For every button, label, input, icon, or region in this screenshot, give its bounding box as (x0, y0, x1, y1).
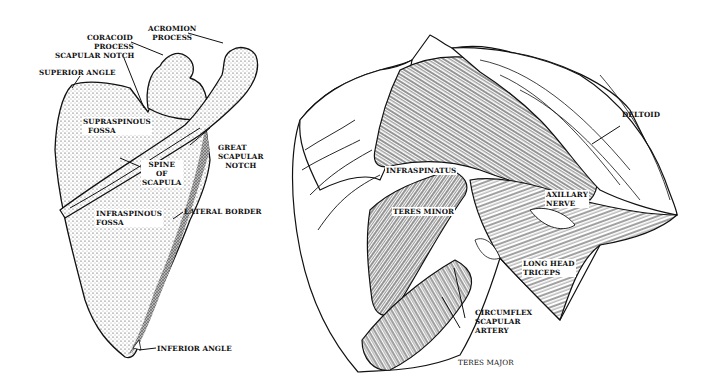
label-supraspinous-fossa: SUPRASPINOUS FOSSA (82, 117, 152, 135)
label-infraspinous-line1: INFRASPINOUS (96, 209, 162, 218)
label-circumflex-line1: CIRCUMFLEX (475, 308, 532, 317)
label-acromion-process: ACROMION PROCESS (148, 24, 196, 42)
label-infraspinatus: INFRASPINATUS (385, 166, 457, 175)
label-great-line3: NOTCH (218, 161, 264, 170)
label-teres-major: TERES MAJOR (458, 358, 514, 367)
label-acromion-line2: PROCESS (148, 33, 196, 42)
label-superior-angle: SUPERIOR ANGLE (39, 68, 116, 77)
label-lateral-border: LATERAL BORDER (184, 207, 262, 216)
label-axillary-nerve: AXILLARY NERVE (545, 190, 589, 208)
label-inferior-angle: INFERIOR ANGLE (157, 344, 232, 353)
label-spine-line3: SCAPULA (142, 178, 182, 187)
label-infraspinous-fossa: INFRASPINOUS FOSSA (95, 209, 163, 227)
label-teres-minor: TERES MINOR (392, 207, 455, 216)
label-coracoid-line1: CORACOID (86, 33, 134, 42)
label-spine-line2: OF (142, 169, 182, 178)
label-spine-of-scapula: SPINE OF SCAPULA (141, 160, 183, 187)
label-triceps-line2: TRICEPS (523, 268, 575, 277)
anatomy-figure: CORACOID PROCESS ACROMION PROCESS SCAPUL… (0, 0, 712, 390)
label-supraspinous-line2: FOSSA (83, 126, 151, 135)
label-great-line1: GREAT (218, 143, 264, 152)
label-long-head-triceps: LONG HEAD TRICEPS (522, 259, 576, 277)
label-acromion-line1: ACROMION (148, 24, 196, 33)
label-coracoid-process: CORACOID PROCESS (86, 33, 134, 51)
label-scapular-notch: SCAPULAR NOTCH (55, 51, 134, 60)
label-axillary-line1: AXILLARY (546, 190, 588, 199)
label-coracoid-line2: PROCESS (86, 42, 134, 51)
label-great-scapular-notch: GREAT SCAPULAR NOTCH (218, 143, 264, 170)
label-triceps-line1: LONG HEAD (523, 259, 575, 268)
label-axillary-line2: NERVE (546, 199, 588, 208)
label-deltoid: DELTOID (622, 110, 660, 119)
label-circumflex-line2: SCAPULAR (475, 317, 532, 326)
label-circumflex-line3: ARTERY (475, 326, 532, 335)
label-circumflex-scapular-artery: CIRCUMFLEX SCAPULAR ARTERY (475, 308, 532, 335)
label-infraspinous-line2: FOSSA (96, 218, 162, 227)
label-supraspinous-line1: SUPRASPINOUS (83, 117, 151, 126)
label-great-line2: SCAPULAR (218, 152, 264, 161)
label-spine-line1: SPINE (142, 160, 182, 169)
scapula-drawing (55, 48, 258, 358)
